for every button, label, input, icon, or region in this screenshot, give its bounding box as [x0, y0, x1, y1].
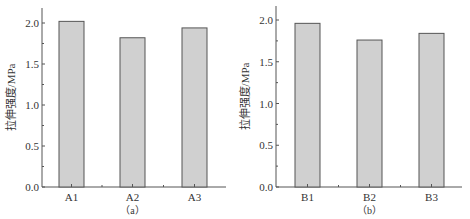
y-tick-label: 2.0 [25, 17, 39, 29]
bar-b2 [357, 40, 382, 187]
y-tick-label: 0.5 [25, 140, 39, 152]
y-tick-label: 1.5 [259, 56, 273, 68]
x-tick-label: A1 [65, 191, 78, 203]
panel-label: （a） [120, 205, 144, 216]
x-tick-label: A2 [126, 191, 139, 203]
x-tick-label: B3 [425, 191, 438, 203]
bar-a3 [182, 28, 207, 187]
y-tick-label: 1.5 [25, 58, 39, 70]
bar-chart-b: 0.00.51.01.52.0拉伸强度/MPaB1B2B3（b） [235, 0, 470, 219]
x-tick-label: B2 [363, 191, 376, 203]
y-axis-label: 拉伸强度/MPa [238, 62, 251, 130]
y-tick-label: 0.0 [259, 181, 273, 193]
chart-panel-b: 0.00.51.01.52.0拉伸强度/MPaB1B2B3（b） [235, 0, 470, 219]
panel-label: （b） [357, 205, 382, 216]
x-tick-label: B1 [301, 191, 314, 203]
bar-a2 [120, 38, 145, 187]
y-tick-label: 0.5 [259, 139, 273, 151]
y-tick-label: 1.0 [259, 98, 273, 110]
x-tick-label: A3 [188, 191, 202, 203]
y-tick-label: 0.0 [25, 181, 39, 193]
bar-b3 [419, 33, 444, 187]
y-tick-label: 1.0 [25, 99, 39, 111]
bar-chart-a: 0.00.51.01.52.0拉伸强度/MPaA1A2A3（a） [0, 0, 235, 219]
y-axis-label: 拉伸强度/MPa [4, 63, 17, 131]
chart-panel-a: 0.00.51.01.52.0拉伸强度/MPaA1A2A3（a） [0, 0, 235, 219]
bar-b1 [295, 23, 320, 187]
bar-a1 [59, 21, 84, 187]
y-tick-label: 2.0 [259, 14, 273, 26]
